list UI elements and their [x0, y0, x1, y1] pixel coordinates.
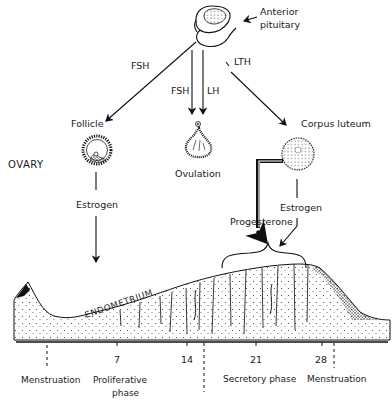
lth-label: LTH — [234, 56, 251, 67]
endometrium-illustration — [14, 264, 390, 340]
fsh-left-label: FSH — [131, 60, 149, 71]
progesterone-arrow — [257, 231, 266, 242]
corpus-luteum-illustration — [282, 138, 314, 170]
tick-label-14: 14 — [181, 354, 193, 365]
anterior-pituitary-gland — [195, 6, 236, 47]
phase-menstruation-start: Menstruation — [21, 375, 80, 385]
lh-center-label: LH — [207, 85, 219, 96]
phase-proliferative-line1: Proliferative — [93, 375, 148, 385]
phase-secretory: Secretory phase — [223, 374, 297, 384]
menstrual-cycle-diagram: Anterior pituitary FSH FSH LH LTH Follic… — [0, 0, 392, 405]
lth-arrow-to-corpus-luteum — [231, 72, 286, 125]
ovulation-label: Ovulation — [175, 168, 221, 179]
follicle-label: Follicle — [71, 118, 104, 129]
ovulation-illustration — [186, 122, 211, 158]
fsh-center-label: FSH — [171, 85, 189, 96]
anterior-pituitary-label-line1: Anterior — [260, 6, 298, 17]
fsh-arrow-to-follicle — [106, 42, 196, 121]
anterior-pituitary-pointer — [244, 17, 257, 21]
phase-menstruation-end: Menstruation — [307, 374, 366, 384]
estrogen-left-label: Estrogen — [76, 199, 118, 210]
phase-proliferative-line2: phase — [112, 388, 140, 398]
corpus-luteum-label: Corpus luteum — [301, 118, 371, 129]
anterior-pituitary-label-line2: pituitary — [260, 19, 301, 30]
follicle-illustration — [83, 136, 111, 164]
estrogen-right-label: Estrogen — [280, 202, 322, 213]
progesterone-label: Progesterone — [230, 216, 293, 227]
tick-label-28: 28 — [315, 354, 327, 365]
tick-label-7: 7 — [114, 354, 120, 365]
tick-label-21: 21 — [250, 354, 262, 365]
ovary-label: OVARY — [8, 159, 44, 170]
